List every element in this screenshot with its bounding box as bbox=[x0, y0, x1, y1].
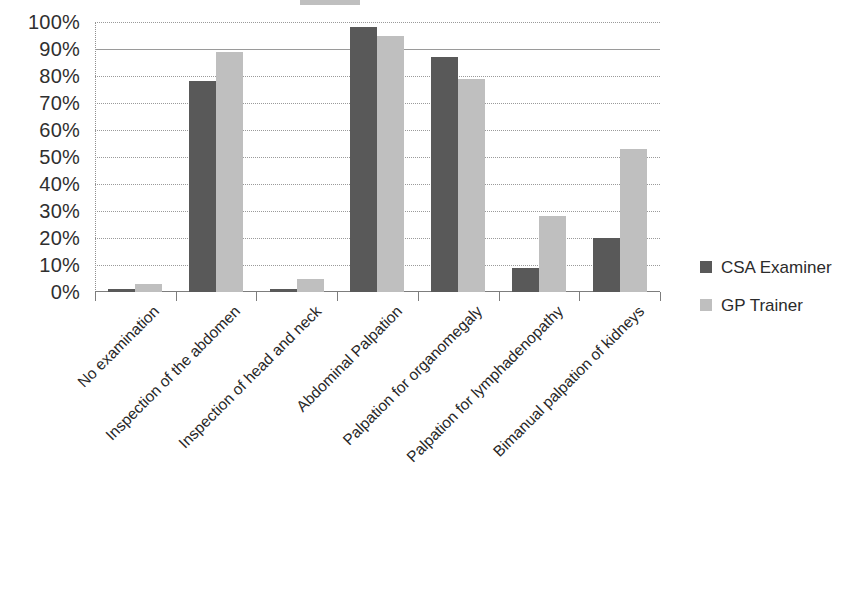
legend-swatch-icon bbox=[700, 261, 712, 273]
x-axis-tick bbox=[418, 292, 419, 301]
legend-label: GP Trainer bbox=[721, 297, 803, 314]
chart-legend: CSA ExaminerGP Trainer bbox=[700, 258, 865, 334]
x-axis-tick bbox=[660, 292, 661, 301]
x-axis-tick bbox=[176, 292, 177, 301]
x-axis-tick bbox=[337, 292, 338, 301]
x-axis-tick bbox=[579, 292, 580, 301]
legend-swatch-icon bbox=[700, 299, 712, 311]
legend-item: CSA Examiner bbox=[700, 258, 865, 276]
legend-item: GP Trainer bbox=[700, 296, 865, 314]
x-axis-tick bbox=[95, 292, 96, 301]
x-axis-tick bbox=[256, 292, 257, 301]
legend-label: CSA Examiner bbox=[721, 259, 832, 276]
bar-chart: 100%90%80%70%60%50%40%30%20%10%0% No exa… bbox=[0, 0, 867, 596]
x-axis-tick bbox=[499, 292, 500, 301]
